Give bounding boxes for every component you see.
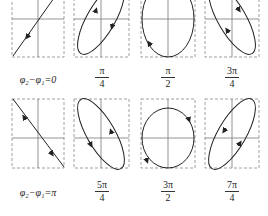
label-phase-3pi-4: 3π4 — [217, 66, 247, 89]
frame-5 — [74, 99, 129, 168]
label-phase-pi-2: π2 — [153, 66, 183, 89]
label-phase-7pi-4: 7π4 — [217, 180, 247, 203]
label-phase-3pi-2: 3π2 — [153, 180, 183, 203]
label-phase-5pi-4: 5π4 — [87, 180, 117, 203]
label-phase-pi: φ₂−φ₁=π — [10, 188, 66, 198]
trace-4 — [13, 99, 64, 167]
label-phase-pi-4: π4 — [87, 66, 117, 89]
label-phase-0: φ₂−φ₁=0 — [10, 75, 66, 85]
trace-0 — [13, 0, 54, 56]
